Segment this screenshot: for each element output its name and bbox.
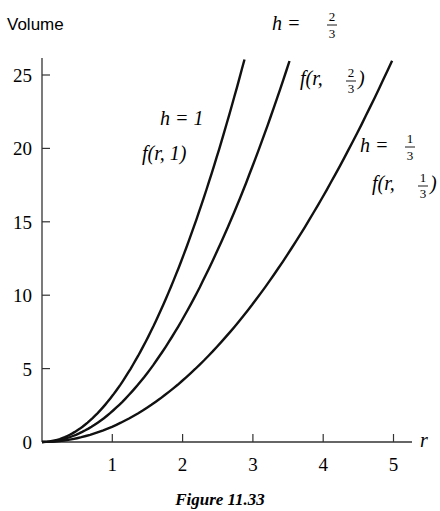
svg-text:2: 2 (329, 9, 336, 24)
x-axis-label: r (420, 429, 428, 451)
y-tick-label: 10 (13, 285, 32, 306)
svg-text:2: 2 (348, 65, 355, 80)
svg-text:3: 3 (407, 148, 414, 163)
svg-text:3: 3 (348, 81, 355, 96)
y-tick-label: 15 (13, 212, 32, 233)
y-tick-label: 0 (23, 432, 33, 453)
svg-text:): ) (429, 172, 437, 195)
x-tick-label: 4 (318, 454, 328, 475)
svg-text:): ) (357, 67, 365, 90)
svg-text:h =: h = (360, 134, 389, 156)
y-axis-label: Volume (7, 15, 64, 34)
svg-text:f(r,: f(r, (300, 67, 323, 90)
chart-canvas: 0510152025 12345 Volume r h = 1 f(r, 1) … (0, 0, 440, 511)
x-ticks: 12345 (108, 434, 399, 475)
svg-text:3: 3 (329, 26, 336, 41)
svg-text:f(r,: f(r, (372, 172, 395, 195)
svg-text:1: 1 (407, 131, 414, 146)
svg-text:3: 3 (420, 186, 427, 201)
y-tick-label: 20 (13, 138, 32, 159)
figure-caption: Figure 11.33 (174, 490, 265, 509)
label-f3: f(r, 1 3 ) (372, 170, 437, 201)
y-tick-label: 5 (23, 359, 33, 380)
label-h2: h = 2 3 (272, 9, 337, 41)
x-tick-label: 2 (178, 454, 188, 475)
svg-text:h =: h = (272, 12, 301, 34)
curves (42, 60, 392, 443)
svg-text:1: 1 (420, 170, 427, 185)
label-h1: h = 1 (160, 107, 204, 129)
y-tick-label: 25 (13, 65, 32, 86)
x-tick-label: 3 (248, 454, 258, 475)
y-ticks: 0510152025 (13, 65, 50, 453)
x-tick-label: 5 (389, 454, 399, 475)
curve-series-1 (42, 60, 245, 443)
label-f1: f(r, 1) (142, 142, 187, 165)
label-f2: f(r, 2 3 ) (300, 65, 365, 96)
x-tick-label: 1 (108, 454, 118, 475)
label-h3: h = 1 3 (360, 131, 415, 163)
